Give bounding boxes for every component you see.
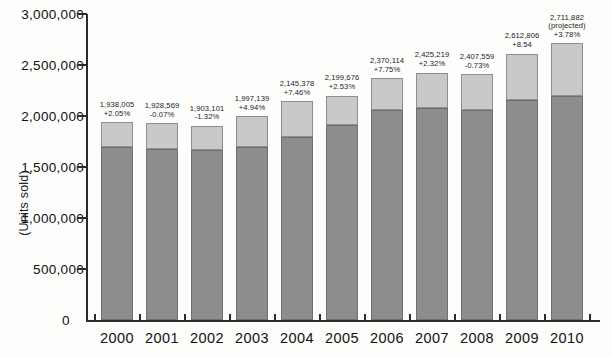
plot-area: 1,938,005 +2.05%20001,928,569 -0.07%2001… bbox=[92, 14, 606, 320]
y-axis-tick-labels: 3,000,0002,500,0002,000,0001,500,0001,00… bbox=[0, 0, 84, 357]
bar-2008 bbox=[461, 74, 493, 320]
y-axis-tick-mark bbox=[78, 13, 87, 15]
x-axis-tick-mark bbox=[229, 314, 231, 322]
bar-segment-upper bbox=[326, 96, 358, 125]
y-axis-tick-mark bbox=[78, 217, 87, 219]
bar-2009 bbox=[506, 54, 538, 321]
y-axis-tick-mark bbox=[78, 166, 87, 168]
y-axis-tick-label: 3,000,000 bbox=[0, 7, 84, 22]
x-axis-line bbox=[86, 320, 600, 322]
x-axis-tick-mark bbox=[589, 314, 591, 322]
y-axis-tick-mark bbox=[78, 64, 87, 66]
bar-chart: (Units sold) 3,000,0002,500,0002,000,000… bbox=[0, 0, 612, 357]
y-axis-tick-label: 1,000,000 bbox=[0, 211, 84, 226]
bar-segment-upper bbox=[146, 123, 178, 148]
y-axis-tick-label: 2,000,000 bbox=[0, 109, 84, 124]
bar-value-label-2008: 2,407,559 -0.73% bbox=[438, 53, 516, 70]
x-axis-tick-mark bbox=[319, 314, 321, 322]
y-axis-zero-label: 0 bbox=[62, 313, 70, 328]
bar-segment-upper bbox=[416, 73, 448, 109]
bar-2007 bbox=[416, 73, 448, 320]
x-axis-tick-mark bbox=[364, 314, 366, 322]
bar-value-label-2010: 2,711,882 (projected) +3.78% bbox=[528, 14, 606, 40]
x-axis-tick-mark bbox=[499, 314, 501, 322]
x-axis-tick-mark bbox=[184, 314, 186, 322]
x-axis-tick-mark bbox=[409, 314, 411, 322]
bar-2003 bbox=[236, 116, 268, 320]
x-axis-tick-mark bbox=[139, 314, 141, 322]
bar-segment-lower bbox=[416, 108, 448, 320]
bar-segment-lower bbox=[326, 125, 358, 320]
bar-segment-upper bbox=[506, 54, 538, 100]
y-axis-tick-label: 500,000 bbox=[0, 262, 84, 277]
bar-segment-lower bbox=[461, 110, 493, 320]
bar-2004 bbox=[281, 101, 313, 320]
bar-segment-lower bbox=[236, 147, 268, 320]
bar-2002 bbox=[191, 126, 223, 320]
bar-segment-lower bbox=[551, 96, 583, 320]
y-axis-tick-label: 1,500,000 bbox=[0, 160, 84, 175]
bar-segment-upper bbox=[191, 126, 223, 150]
bar-segment-lower bbox=[371, 110, 403, 320]
x-axis-label-2010: 2010 bbox=[531, 330, 603, 346]
bar-segment-lower bbox=[191, 150, 223, 320]
y-axis-tick-label: 2,500,000 bbox=[0, 58, 84, 73]
bar-segment-lower bbox=[146, 149, 178, 320]
bar-segment-lower bbox=[281, 137, 313, 320]
bar-segment-upper bbox=[551, 43, 583, 96]
bar-segment-upper bbox=[236, 116, 268, 146]
bar-segment-lower bbox=[101, 147, 133, 320]
x-axis-tick-mark bbox=[454, 314, 456, 322]
bar-segment-upper bbox=[101, 122, 133, 146]
bar-2001 bbox=[146, 123, 178, 320]
x-axis-tick-mark bbox=[544, 314, 546, 322]
bar-segment-upper bbox=[281, 101, 313, 137]
bar-2006 bbox=[371, 78, 403, 320]
bar-2005 bbox=[326, 96, 358, 320]
bar-segment-upper bbox=[461, 74, 493, 109]
bar-value-label-2003: 1,997,139 +4.94% bbox=[213, 95, 291, 112]
y-axis-tick-mark bbox=[78, 268, 87, 270]
x-axis-tick-mark bbox=[94, 314, 96, 322]
bar-value-label-2005: 2,199,676 +2.53% bbox=[303, 74, 381, 91]
x-axis-tick-mark bbox=[274, 314, 276, 322]
bar-2010 bbox=[551, 43, 583, 320]
bar-segment-upper bbox=[371, 78, 403, 110]
bar-segment-lower bbox=[506, 100, 538, 320]
bar-2000 bbox=[101, 122, 133, 320]
